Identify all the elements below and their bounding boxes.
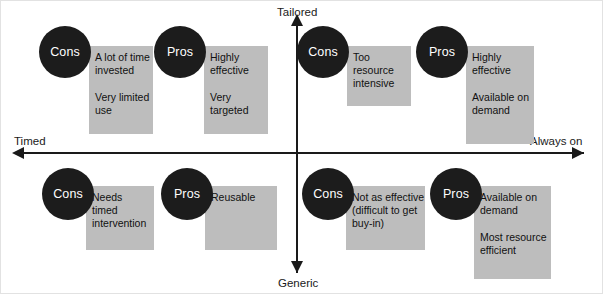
cell-text: Highly effective Very targeted [210,51,270,117]
cell-text: Too resource intensive [353,51,413,91]
cell-text: Needs timed intervention [92,191,156,231]
axis-label-bottom: Generic [278,278,318,290]
badge-cons: Cons [302,168,354,220]
badge-pros: Pros [430,168,482,220]
arrow-right-icon [572,147,584,159]
badge-pros: Pros [416,26,468,78]
cell-text: Not as effective (difficult to get buy-i… [352,191,428,231]
badge-cons: Cons [39,26,91,78]
horizontal-axis-line [21,152,584,154]
quadrant-diagram: Tailored Generic Timed Always on A lot o… [0,0,603,294]
cell-text: Reusable [211,191,279,204]
arrow-left-icon [12,147,24,159]
badge-pros: Pros [154,26,206,78]
badge-cons: Cons [42,168,94,220]
axis-label-top: Tailored [277,7,317,19]
cell-text: Available on demand Most resource effici… [480,191,554,257]
axis-label-right: Always on [530,136,582,148]
vertical-axis-line [296,23,298,273]
cell-text: Highly effective Available on demand [472,51,536,117]
axis-label-left: Timed [14,136,46,148]
arrow-down-icon [291,261,303,273]
badge-pros: Pros [161,168,213,220]
cell-text: A lot of time invested Very limited use [95,51,155,117]
badge-cons: Cons [297,26,349,78]
